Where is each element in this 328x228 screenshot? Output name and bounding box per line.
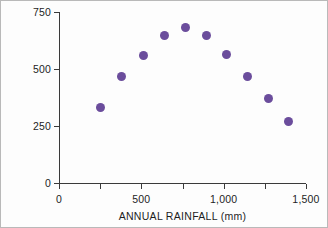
x-tick-mark	[306, 184, 307, 189]
x-tick-label: 500	[132, 193, 150, 205]
data-point	[202, 31, 211, 40]
y-tick-mark	[54, 126, 59, 127]
x-tick-label: 0	[56, 193, 62, 205]
data-point	[96, 103, 105, 112]
y-tick-label: 750	[11, 6, 51, 18]
y-tick-label: 250	[11, 120, 51, 132]
data-point	[117, 72, 126, 81]
x-tick-mark	[100, 184, 101, 189]
x-tick-mark	[183, 184, 184, 189]
data-point	[160, 31, 169, 40]
y-tick-label: 0	[11, 177, 51, 189]
y-axis-line	[59, 12, 60, 184]
x-axis-title: ANNUAL RAINFALL (mm)	[59, 210, 306, 222]
y-tick-mark	[54, 12, 59, 13]
data-point	[243, 72, 252, 81]
data-point	[264, 94, 273, 103]
x-tick-mark	[59, 184, 60, 189]
y-tick-mark	[54, 69, 59, 70]
data-point	[181, 23, 190, 32]
y-tick-label: 500	[11, 63, 51, 75]
data-point	[284, 117, 293, 126]
data-point	[139, 51, 148, 60]
chart-figure: 0250500750 05001,0001,500 KILOGRAMS PER …	[0, 0, 328, 228]
x-tick-mark	[265, 184, 266, 189]
x-tick-mark	[224, 184, 225, 189]
data-point	[222, 50, 231, 59]
x-tick-mark	[141, 184, 142, 189]
x-tick-label: 1,000	[210, 193, 237, 205]
x-tick-label: 1,500	[292, 193, 319, 205]
plot-area: 0250500750 05001,0001,500	[59, 12, 306, 184]
